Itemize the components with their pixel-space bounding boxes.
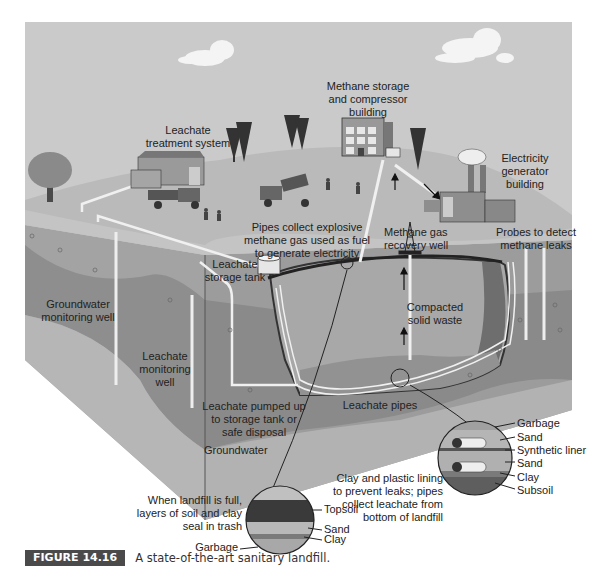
label-line: Clay and plastic lining <box>325 472 443 485</box>
label-cap-description: When landfill is full, layers of soil an… <box>110 494 242 533</box>
label-leachate-storage-tank: Leachate storage tank <box>200 258 270 284</box>
label-line: When landfill is full, <box>110 494 242 507</box>
label-cap-clay: Clay <box>324 533 346 546</box>
label-line: well <box>135 376 195 389</box>
label-line: Compacted <box>395 301 475 314</box>
label-groundwater: Groundwater <box>204 444 268 457</box>
label-liner-synthetic: Synthetic liner <box>517 444 586 457</box>
label-leachate-pumped: Leachate pumped up to storage tank or sa… <box>198 400 310 439</box>
label-line: Leachate pumped up <box>198 400 310 413</box>
label-line: building <box>318 106 418 119</box>
label-line: collect leachate from <box>325 498 443 511</box>
label-line: monitoring <box>135 363 195 376</box>
label-line: treatment system <box>133 137 243 150</box>
label-line: methane leaks <box>495 239 577 252</box>
label-liner-description: Clay and plastic lining to prevent leaks… <box>325 472 443 524</box>
label-probes: Probes to detect methane leaks <box>495 226 577 252</box>
label-line: monitoring well <box>38 311 118 324</box>
figure-caption: FIGURE 14.16 A state-of-the-art sanitary… <box>25 550 330 566</box>
label-electricity-generator: Electricity generator building <box>490 152 560 191</box>
label-leachate-pipes: Leachate pipes <box>340 399 420 412</box>
label-methane-storage: Methane storage and compressor building <box>318 80 418 119</box>
label-line: seal in trash <box>110 520 242 533</box>
label-line: bottom of landfill <box>325 511 443 524</box>
label-line: Leachate <box>135 350 195 363</box>
label-line: generator <box>490 165 560 178</box>
label-liner-sand-1: Sand <box>517 431 543 444</box>
label-liner-clay: Clay <box>517 471 539 484</box>
label-line: recovery well <box>384 239 464 252</box>
label-line: to storage tank or <box>198 413 310 426</box>
label-line: to prevent leaks; pipes <box>325 485 443 498</box>
label-methane-recovery-well: Methane gas recovery well <box>384 226 464 252</box>
label-leachate-treatment: Leachate treatment system <box>133 124 243 150</box>
methane-storage-building <box>342 118 400 157</box>
figure-caption-text: A state-of-the-art sanitary landfill. <box>135 551 330 565</box>
label-line: solid waste <box>395 314 475 327</box>
label-liner-garbage: Garbage <box>517 417 560 430</box>
label-line: and compressor <box>318 93 418 106</box>
label-liner-sand-2: Sand <box>517 457 543 470</box>
label-line: Pipes collect explosive <box>238 221 376 234</box>
label-liner-subsoil: Subsoil <box>517 484 553 497</box>
label-compacted-solid-waste: Compacted solid waste <box>395 301 475 327</box>
label-line: Leachate <box>133 124 243 137</box>
label-line: Methane storage <box>318 80 418 93</box>
label-line: storage tank <box>200 271 270 284</box>
label-groundwater-monitoring-well: Groundwater monitoring well <box>38 298 118 324</box>
label-line: methane gas used as fuel <box>238 234 376 247</box>
label-leachate-monitoring-well: Leachate monitoring well <box>135 350 195 389</box>
label-line: layers of soil and clay <box>110 507 242 520</box>
label-line: safe disposal <box>198 426 310 439</box>
label-line: building <box>490 178 560 191</box>
label-pipes-collect: Pipes collect explosive methane gas used… <box>238 221 376 260</box>
label-line: Methane gas <box>384 226 464 239</box>
landfill-diagram: Leachate treatment system Methane storag… <box>0 0 600 578</box>
diagram-illustration <box>0 0 600 578</box>
leachate-treatment-building <box>131 151 204 188</box>
label-line: Electricity <box>490 152 560 165</box>
label-line: Groundwater <box>38 298 118 311</box>
label-line: Leachate <box>200 258 270 271</box>
figure-number-badge: FIGURE 14.16 <box>25 550 125 566</box>
label-line: Probes to detect <box>495 226 577 239</box>
